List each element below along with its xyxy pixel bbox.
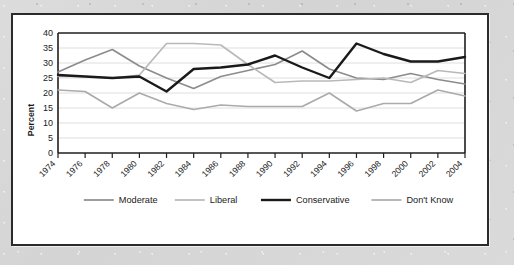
x-tick-label: 1996 (335, 158, 356, 179)
x-tick-label: 1990 (254, 158, 275, 179)
x-tick-label: 1992 (281, 158, 302, 179)
x-tick-label: 1974 (37, 158, 58, 179)
x-axis-tick-labels: 1974197619781980198219841986198819901992… (37, 158, 465, 179)
legend-label-liberal: Liberal (210, 195, 238, 205)
y-tick-label: 20 (43, 88, 53, 98)
y-tick-label: 10 (43, 118, 53, 128)
x-tick-label: 1984 (172, 158, 193, 179)
legend-label-don-t-know: Don't Know (406, 195, 453, 205)
chart-plot-wrapper: 0510152025303540 Percent 197419761978198… (13, 15, 487, 244)
series-line-moderate (58, 50, 465, 89)
x-tick-label: 1998 (362, 158, 383, 179)
x-tick-label: 1978 (91, 158, 112, 179)
x-tick-label: 1982 (145, 158, 166, 179)
y-tick-label: 0 (48, 148, 53, 158)
y-tick-label: 35 (43, 43, 53, 53)
x-tick-label: 2000 (390, 158, 411, 179)
y-tick-label: 30 (43, 58, 53, 68)
y-tick-label: 40 (43, 28, 53, 38)
chart-figure-frame: 0510152025303540 Percent 197419761978198… (11, 13, 489, 246)
x-tick-label: 2002 (417, 158, 438, 179)
y-axis-tick-labels: 0510152025303540 (43, 28, 53, 158)
y-tick-label: 5 (48, 133, 53, 143)
chart-legend: ModerateLiberalConservativeDon't Know (84, 195, 454, 205)
x-tick-label: 2004 (444, 158, 465, 179)
x-tick-label: 1976 (64, 158, 85, 179)
x-tick-label: 1988 (227, 158, 248, 179)
y-tick-label: 25 (43, 73, 53, 83)
y-tick-label: 15 (43, 103, 53, 113)
gridline-group (58, 48, 465, 138)
line-chart: 0510152025303540 Percent 197419761978198… (13, 15, 487, 244)
legend-label-conservative: Conservative (296, 195, 350, 205)
data-series-group (58, 44, 465, 112)
y-axis-title: Percent (26, 104, 36, 136)
x-tick-label: 1986 (200, 158, 221, 179)
x-tick-label: 1994 (308, 158, 329, 179)
x-tick-label: 1980 (118, 158, 139, 179)
legend-label-moderate: Moderate (119, 195, 158, 205)
